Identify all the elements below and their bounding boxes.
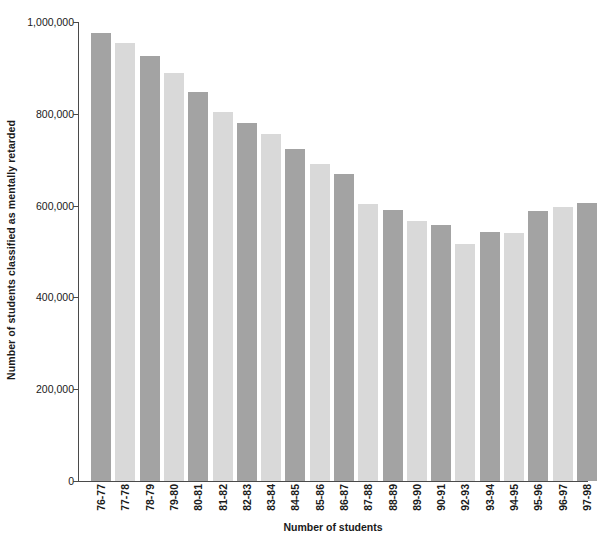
- plot-area: [78, 22, 588, 482]
- bar: [577, 203, 597, 481]
- y-axis-tick-mark: [73, 481, 78, 482]
- x-axis-tick-label: 78-79: [143, 484, 157, 524]
- x-axis-tick-label: 77-78: [118, 484, 132, 524]
- bar: [407, 221, 427, 481]
- x-axis-tick-label-text: 77-78: [120, 484, 131, 511]
- x-axis-line: [78, 481, 588, 482]
- bar: [334, 174, 354, 481]
- bar: [310, 164, 330, 481]
- bar: [91, 33, 111, 481]
- x-axis-tick-label-text: 85-86: [314, 484, 325, 511]
- x-axis-tick-label: 94-95: [507, 484, 521, 524]
- x-axis-tick-label-text: 90-91: [436, 484, 447, 511]
- x-axis-tick-label: 90-91: [434, 484, 448, 524]
- x-axis-tick-label: 86-87: [337, 484, 351, 524]
- y-axis-tick-label: 200,000: [18, 384, 74, 395]
- bar: [213, 112, 233, 481]
- x-axis-tick-labels: 76-7777-7878-7979-8080-8181-8282-8383-84…: [78, 484, 588, 524]
- x-axis-tick-label-text: 80-81: [193, 484, 204, 511]
- x-axis-tick-label: 96-97: [556, 484, 570, 524]
- bar: [504, 233, 524, 481]
- x-axis-tick-label: 89-90: [410, 484, 424, 524]
- y-axis-tick-label: 800,000: [18, 109, 74, 120]
- x-axis-tick-label-text: 95-96: [533, 484, 544, 511]
- y-axis-tick-labels: 0200,000400,000600,000800,0001,000,000: [14, 0, 74, 545]
- x-axis-tick-label: 93-94: [483, 484, 497, 524]
- x-axis-tick-label-text: 96-97: [557, 484, 568, 511]
- bar: [358, 204, 378, 481]
- bar: [480, 232, 500, 481]
- x-axis-tick-label-text: 88-89: [387, 484, 398, 511]
- x-axis-tick-label-text: 79-80: [169, 484, 180, 511]
- x-axis-tick-label: 80-81: [191, 484, 205, 524]
- x-axis-tick-label: 85-86: [313, 484, 327, 524]
- y-axis-tick-label: 1,000,000: [18, 17, 74, 28]
- x-axis-tick-label: 92-93: [458, 484, 472, 524]
- x-axis-tick-label-text: 87-88: [363, 484, 374, 511]
- x-axis-tick-label: 79-80: [167, 484, 181, 524]
- x-axis-tick-label: 81-82: [216, 484, 230, 524]
- bar: [261, 134, 281, 481]
- bar-chart: Number of students classified as mentall…: [0, 0, 607, 545]
- bar: [237, 123, 257, 481]
- y-axis-tick-label: 0: [18, 476, 74, 487]
- x-axis-tick-label-text: 82-83: [241, 484, 252, 511]
- bar: [431, 225, 451, 481]
- bar: [553, 207, 573, 481]
- x-axis-tick-label-text: 92-93: [460, 484, 471, 511]
- bar: [188, 92, 208, 481]
- x-axis-tick-label-text: 94-95: [509, 484, 520, 511]
- x-axis-tick-label-text: 81-82: [217, 484, 228, 511]
- y-axis-tick-label: 600,000: [18, 201, 74, 212]
- x-axis-tick-label-text: 86-87: [339, 484, 350, 511]
- x-axis-title: Number of students: [78, 521, 588, 533]
- bar: [455, 244, 475, 481]
- x-axis-tick-label-text: 93-94: [484, 484, 495, 511]
- x-axis-tick-label: 87-88: [361, 484, 375, 524]
- x-axis-tick-label: 76-77: [94, 484, 108, 524]
- x-axis-tick-label-text: 97-98: [581, 484, 592, 511]
- bars-layer: [78, 22, 588, 481]
- x-axis-tick-label-text: 84-85: [290, 484, 301, 511]
- bar: [285, 149, 305, 481]
- bar: [140, 56, 160, 481]
- x-axis-tick-label: 83-84: [264, 484, 278, 524]
- bar: [528, 211, 548, 481]
- x-axis-tick-label-text: 78-79: [144, 484, 155, 511]
- x-axis-tick-label: 88-89: [386, 484, 400, 524]
- x-axis-tick-label: 84-85: [288, 484, 302, 524]
- x-axis-tick-label-text: 89-90: [411, 484, 422, 511]
- x-axis-tick-label: 82-83: [240, 484, 254, 524]
- x-axis-tick-label-text: 83-84: [266, 484, 277, 511]
- x-axis-tick-label: 95-96: [531, 484, 545, 524]
- bar: [115, 43, 135, 481]
- y-axis-tick-label: 400,000: [18, 292, 74, 303]
- bar: [383, 210, 403, 481]
- bar: [164, 73, 184, 481]
- x-axis-tick-label: 97-98: [580, 484, 594, 524]
- x-axis-tick-label-text: 76-77: [96, 484, 107, 511]
